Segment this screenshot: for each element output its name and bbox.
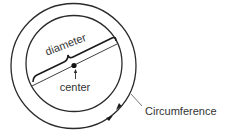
center-dot (71, 63, 76, 68)
center-label: center (60, 81, 91, 93)
circumference-leader-line (131, 94, 142, 106)
circumference-label: Circumference (145, 105, 217, 117)
circle-diagram: diameter center Circumference (0, 0, 227, 137)
center-arrowhead-icon (74, 69, 77, 73)
